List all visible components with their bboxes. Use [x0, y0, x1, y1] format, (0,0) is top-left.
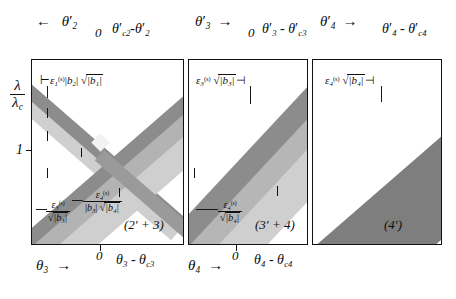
- fraction-denominator: √|b3|: [46, 211, 70, 224]
- y-axis-tick-label-one: 1: [16, 143, 23, 157]
- sqrt-abs-b3: √|b3|: [213, 74, 235, 88]
- bracket-corner-icon: ⊢: [40, 74, 50, 86]
- panel1-tick-center: [81, 148, 82, 157]
- theta-subscript: 3: [206, 21, 211, 31]
- theta-subscript: c4: [418, 28, 426, 38]
- panel1-annotation-epsilon3-fraction: ε3(s) √|b3|: [46, 200, 70, 225]
- arrow-right-icon: →: [56, 257, 71, 273]
- panel1-annotation-epsilon1: ⊢ε1(s)|b2| √|b1|: [40, 74, 103, 88]
- panel2-arrow-tip: [250, 96, 251, 104]
- panel1-top-left-axis-label: ← θ′2: [36, 14, 77, 31]
- panel3-tag: (4′): [384, 217, 402, 233]
- panel2-annotation-epsilon4-fraction: ε4(s) √|b4|: [218, 200, 242, 225]
- minus-sign: -: [396, 21, 408, 36]
- panel1-leader-epsilon4: [72, 200, 83, 201]
- theta-subscript: 2: [145, 28, 150, 38]
- panel2-annotation-epsilon3: ε3(s) √|b3|⊣: [196, 74, 246, 88]
- panel2-bottom-zero-tick: [236, 245, 237, 251]
- panel2-top-right-axis-label: θ′3 - θ′c3: [262, 22, 306, 37]
- y-axis-label: λ λc: [10, 78, 25, 112]
- panel3-leader-epsilon4: [381, 86, 382, 102]
- panel2-zero-label: 0: [248, 26, 255, 39]
- fraction-denominator: |b3| √|b4|: [83, 201, 122, 214]
- fraction-numerator: ε4(s): [218, 200, 242, 211]
- theta-symbol: θ: [139, 252, 146, 267]
- epsilon-superscript: (s): [58, 75, 65, 82]
- theta-symbol: θ: [254, 252, 261, 267]
- epsilon-superscript: (s): [204, 75, 211, 82]
- lambda-over-lambda-c: λ λc: [10, 78, 25, 112]
- theta-subscript: c3: [298, 28, 306, 38]
- bracket-corner-icon: ⊣: [236, 74, 246, 86]
- arrow-left-icon: ←: [36, 13, 51, 29]
- fraction-numerator: ε4(s): [83, 190, 122, 201]
- panel2-bottom-right-axis-label: θ4 - θc4: [254, 253, 292, 268]
- theta-symbol: θ: [262, 21, 269, 36]
- lambda-symbol: λ: [10, 78, 25, 94]
- panel1-annotation-epsilon4-fraction: ε4(s) |b3| √|b4|: [83, 190, 122, 215]
- panel1-tick-left-lower: [47, 168, 48, 178]
- panel2-leader-epsilon4: [196, 209, 218, 210]
- panel2-tick-left: [194, 168, 195, 178]
- panel2-tag: (3′ + 4): [255, 217, 295, 233]
- panel2-bottom-left-axis-label: θ4→: [188, 258, 223, 275]
- theta-symbol: θ: [288, 21, 295, 36]
- arrow-right-icon: →: [208, 257, 223, 273]
- fraction-epsilon3-over-sqrt-b3: ε3(s) √|b3|: [46, 200, 70, 225]
- theta-symbol: θ: [277, 252, 284, 267]
- panel3-annotation-epsilon4: ε4(s) √|b4|⊣: [325, 74, 375, 88]
- theta-subscript: c3: [146, 259, 154, 269]
- sqrt-abs-b1: √|b1|: [81, 74, 103, 88]
- panel1-leader-epsilon1: [47, 86, 48, 98]
- arrow-right-icon: →: [218, 13, 233, 29]
- band-ascending-solid: [312, 97, 442, 245]
- lambda-c-symbol: λc: [10, 94, 25, 113]
- theta-symbol: θ: [116, 252, 123, 267]
- bracket-corner-icon: ⊣: [365, 74, 375, 86]
- minus-sign: -: [127, 252, 139, 267]
- sqrt-abs-b4: √|b4|: [342, 74, 364, 88]
- panel1-bottom-zero-tick: [100, 245, 101, 251]
- panel3-top-right-axis-label: θ′4 - θ′c4: [382, 22, 426, 37]
- minus-sign: -: [276, 21, 288, 36]
- theta-subscript: c4: [284, 259, 292, 269]
- panel2-tick-right: [277, 186, 278, 196]
- minus-sign: -: [265, 252, 277, 267]
- fraction-denominator: √|b4|: [218, 211, 242, 224]
- fraction-numerator: ε3(s): [46, 200, 70, 211]
- panel2-top-left-axis-label: θ′3→: [195, 14, 233, 31]
- epsilon-superscript: (s): [333, 75, 340, 82]
- panel1-top-right-axis-label: θ′c2-θ′2: [112, 22, 149, 37]
- theta-symbol: θ: [112, 21, 119, 36]
- theta-symbol: θ: [408, 21, 415, 36]
- theta-symbol: θ: [382, 21, 389, 36]
- theta-subscript: 4: [331, 21, 336, 31]
- panel1-tick-left-upper: [47, 108, 48, 118]
- theta-subscript: 2: [72, 21, 77, 31]
- panel1-tick-left-mid: [47, 131, 48, 141]
- panel3-top-left-axis-label: θ′4→: [320, 14, 358, 31]
- panel1-bottom-right-axis-label: θ3 - θc3: [116, 253, 154, 268]
- panel1-tag: (2′ + 3): [124, 217, 164, 233]
- figure-root: ← θ′2 0 θ′c2-θ′2 θ′3→ 0 θ′3 - θ′c3 θ′4→ …: [0, 0, 456, 299]
- theta-subscript: 3: [43, 265, 48, 275]
- arrow-right-icon: →: [343, 13, 358, 29]
- panel1-zero-label: 0: [95, 26, 102, 39]
- panel1-bottom-left-axis-label: θ3→: [36, 258, 71, 275]
- theta-subscript: 4: [195, 265, 200, 275]
- fraction-epsilon4-over-b3-sqrt-b4: ε4(s) |b3| √|b4|: [83, 190, 122, 215]
- fraction-epsilon4-over-sqrt-b4: ε4(s) √|b4|: [218, 200, 242, 225]
- theta-symbol: θ: [135, 21, 142, 36]
- abs-b2: |b2|: [65, 74, 79, 86]
- panel1-leader-epsilon3: [36, 209, 47, 210]
